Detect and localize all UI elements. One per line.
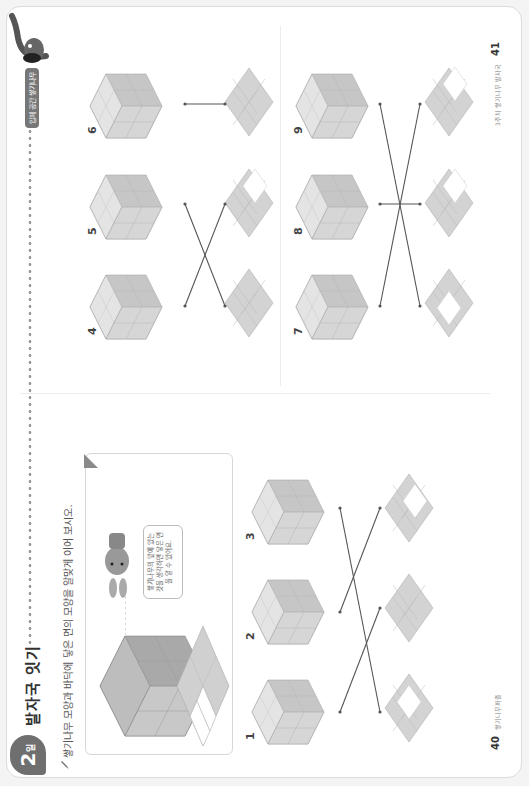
cube-stack-8 bbox=[296, 175, 368, 239]
rotated-book-spread: 2일 발자국 잇기 입체 공간 쌓기나무 쌓기나무 모양과 바닥에 닿은 면의 … bbox=[0, 0, 529, 786]
cube-stack-3 bbox=[252, 480, 324, 544]
cube-stack-1 bbox=[252, 680, 324, 744]
footprint-f bbox=[225, 68, 273, 136]
cube-stack-9 bbox=[296, 74, 368, 138]
cube-stack-4 bbox=[90, 275, 162, 339]
left-page-number: 40 bbox=[490, 736, 501, 750]
footprint-b bbox=[385, 574, 433, 642]
right-footer-text: 3주차 쌓기나무 발자국 bbox=[493, 64, 502, 126]
page-gutter bbox=[20, 393, 490, 394]
right-page-number: 41 bbox=[490, 42, 501, 56]
left-footer-text: 쌓기나무퍼즐 bbox=[493, 694, 502, 730]
section-divider bbox=[280, 26, 281, 386]
cube-stack-5 bbox=[90, 175, 162, 239]
cube-stack-6 bbox=[90, 74, 162, 138]
footprint-d bbox=[225, 269, 273, 337]
cube-stack-2 bbox=[252, 580, 324, 644]
cube-stack-7 bbox=[296, 275, 368, 339]
